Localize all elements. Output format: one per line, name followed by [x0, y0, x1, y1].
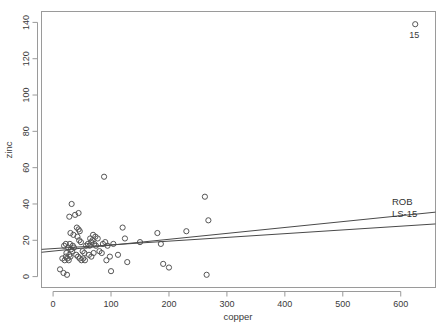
y-tick-label: 120	[21, 51, 31, 66]
x-tick-label: 300	[219, 299, 234, 309]
series-label-rob: ROB	[392, 196, 413, 207]
y-tick-label: 0	[21, 274, 31, 279]
y-tick-label: 100	[21, 88, 31, 103]
x-tick-label: 200	[161, 299, 176, 309]
y-tick-label: 60	[21, 163, 31, 173]
x-tick-label: 400	[277, 299, 292, 309]
outlier-point-label: 15	[409, 30, 419, 40]
series-label-ls-15: LS-15	[392, 208, 417, 219]
plot-canvas: 0100200300400500600 020406080100120140 R…	[0, 0, 446, 332]
scatter-plot-figure: 0100200300400500600 020406080100120140 R…	[0, 0, 446, 332]
x-tick-label: 0	[51, 299, 56, 309]
x-tick-label: 100	[104, 299, 119, 309]
y-tick-label: 40	[21, 199, 31, 209]
y-tick-label: 20	[21, 235, 31, 245]
y-tick-label: 140	[21, 15, 31, 30]
x-tick-label: 600	[393, 299, 408, 309]
plot-background	[0, 0, 446, 332]
x-axis-title: copper	[223, 311, 252, 322]
y-axis-title: zinc	[3, 141, 14, 158]
x-tick-label: 500	[335, 299, 350, 309]
y-tick-label: 80	[21, 126, 31, 136]
